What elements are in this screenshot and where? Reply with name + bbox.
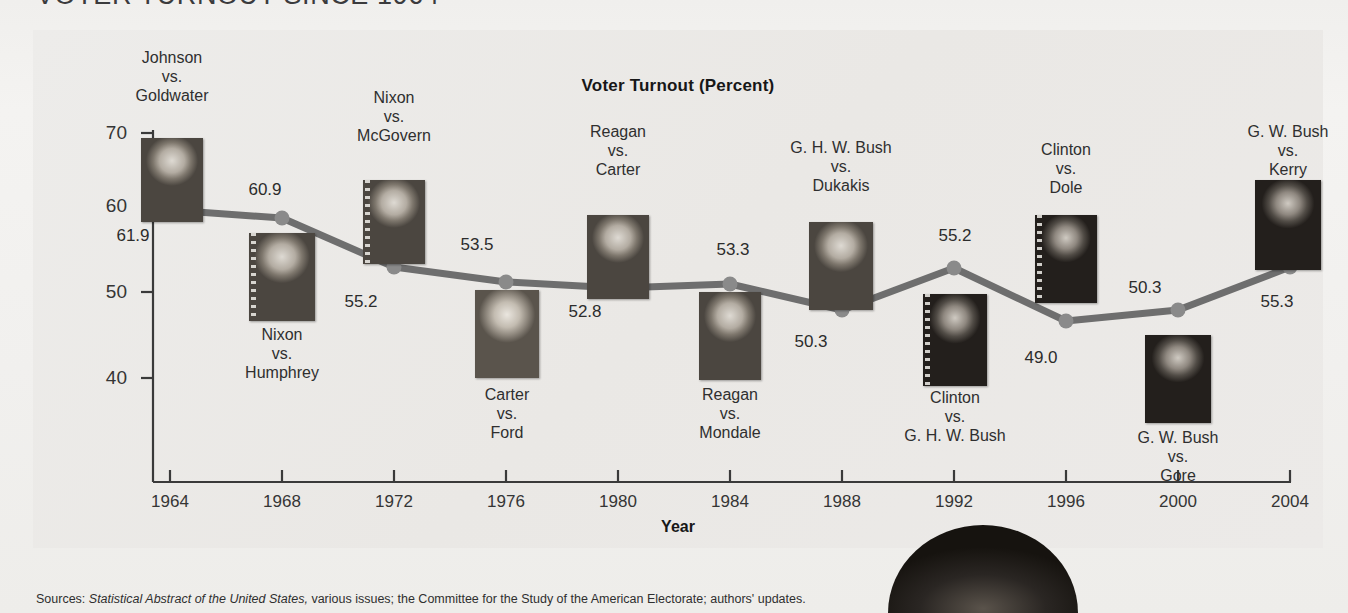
matchup-1984-line2: vs. xyxy=(645,404,815,423)
matchup-1976: Carter vs. Ford xyxy=(422,385,592,442)
x-tick-label-1984: 1984 xyxy=(685,492,775,512)
value-label-1980: 52.8 xyxy=(545,302,625,322)
matchup-2000-line1: G. W. Bush xyxy=(1093,428,1263,447)
matchup-1980-line2: vs. xyxy=(533,141,703,160)
reagan-1984-portrait xyxy=(699,292,761,380)
matchup-1988-line2: vs. xyxy=(756,157,926,176)
y-tick-label-70: 70 xyxy=(79,122,127,144)
page-root: VOTER TURNOUT SINCE 1964 Voter Turnout (… xyxy=(0,0,1348,613)
matchup-1972-line1: Nixon xyxy=(309,88,479,107)
matchup-1996: Clinton vs. Dole xyxy=(981,140,1151,197)
matchup-1972: Nixon vs. McGovern xyxy=(309,88,479,145)
matchup-1964-line2: vs. xyxy=(87,67,257,86)
matchup-1992: Clinton vs. G. H. W. Bush xyxy=(870,388,1040,445)
value-label-1996: 49.0 xyxy=(1001,348,1081,368)
matchup-1996-line1: Clinton xyxy=(981,140,1151,159)
matchup-1968-line1: Nixon xyxy=(197,325,367,344)
matchup-2000-line2: vs. xyxy=(1093,447,1263,466)
matchup-2004: G. W. Bush vs. Kerry xyxy=(1203,122,1348,179)
gw-bush-2000-portrait xyxy=(1145,335,1211,423)
value-label-1984: 53.3 xyxy=(693,240,773,260)
x-tick-label-1992: 1992 xyxy=(909,492,999,512)
x-tick-label-2000: 2000 xyxy=(1133,492,1223,512)
value-label-1968: 60.9 xyxy=(225,180,305,200)
matchup-2004-line2: vs. xyxy=(1203,141,1348,160)
matchup-1976-line2: vs. xyxy=(422,404,592,423)
matchup-1980-line1: Reagan xyxy=(533,122,703,141)
sources-note: Sources: Statistical Abstract of the Uni… xyxy=(36,592,806,606)
value-label-1992: 55.2 xyxy=(915,226,995,246)
x-tick-label-1988: 1988 xyxy=(797,492,887,512)
x-tick-label-2004: 2004 xyxy=(1245,492,1335,512)
matchup-1972-line2: vs. xyxy=(309,107,479,126)
value-label-1964: 61.9 xyxy=(93,226,173,246)
johnson-portrait xyxy=(141,138,203,222)
matchup-1968-line3: Humphrey xyxy=(197,363,367,382)
sources-prefix: Sources: xyxy=(36,592,89,606)
x-tick-label-1996: 1996 xyxy=(1021,492,1111,512)
chart-panel: Voter Turnout (Percent) Year xyxy=(33,30,1323,548)
matchup-1968: Nixon vs. Humphrey xyxy=(197,325,367,382)
matchup-1992-line3: G. H. W. Bush xyxy=(870,426,1040,445)
matchup-1976-line3: Ford xyxy=(422,423,592,442)
x-tick-label-1972: 1972 xyxy=(349,492,439,512)
matchup-1988-line1: G. H. W. Bush xyxy=(756,138,926,157)
y-tick-label-50: 50 xyxy=(79,281,127,303)
matchup-1988-line3: Dukakis xyxy=(756,176,926,195)
matchup-1964: Johnson vs. Goldwater xyxy=(87,48,257,105)
matchup-1980-line3: Carter xyxy=(533,160,703,179)
matchup-1964-line3: Goldwater xyxy=(87,86,257,105)
matchup-1992-line2: vs. xyxy=(870,407,1040,426)
x-tick-label-1976: 1976 xyxy=(461,492,551,512)
matchup-2000-line3: Gore xyxy=(1093,466,1263,485)
matchup-2004-line3: Kerry xyxy=(1203,160,1348,179)
gw-bush-2004-portrait xyxy=(1255,180,1321,270)
y-tick-label-40: 40 xyxy=(79,367,127,389)
nixon-1968-portrait xyxy=(249,233,315,321)
matchup-2004-line1: G. W. Bush xyxy=(1203,122,1348,141)
matchup-1996-line2: vs. xyxy=(981,159,1151,178)
matchup-1996-line3: Dole xyxy=(981,178,1151,197)
nixon-1972-portrait xyxy=(363,180,425,264)
matchup-1968-line2: vs. xyxy=(197,344,367,363)
carter-portrait xyxy=(475,290,539,378)
reagan-1980-portrait xyxy=(587,215,649,299)
x-tick-label-1980: 1980 xyxy=(573,492,663,512)
sources-rest: various issues; the Committee for the St… xyxy=(308,592,806,606)
value-label-1972: 55.2 xyxy=(321,292,401,312)
value-label-2000: 50.3 xyxy=(1105,278,1185,298)
matchup-2000: G. W. Bush vs. Gore xyxy=(1093,428,1263,485)
matchup-1988: G. H. W. Bush vs. Dukakis xyxy=(756,138,926,195)
page-headline: VOTER TURNOUT SINCE 1964 xyxy=(36,0,440,11)
matchup-1992-line1: Clinton xyxy=(870,388,1040,407)
x-tick-label-1964: 1964 xyxy=(125,492,215,512)
ghw-bush-portrait xyxy=(809,222,873,310)
y-tick-label-60: 60 xyxy=(79,195,127,217)
matchup-1984-line1: Reagan xyxy=(645,385,815,404)
value-label-1988: 50.3 xyxy=(771,332,851,352)
matchup-1980: Reagan vs. Carter xyxy=(533,122,703,179)
value-label-2004: 55.3 xyxy=(1237,292,1317,312)
matchup-1964-line1: Johnson xyxy=(87,48,257,67)
x-tick-label-1968: 1968 xyxy=(237,492,327,512)
matchup-1976-line1: Carter xyxy=(422,385,592,404)
matchup-1972-line3: McGovern xyxy=(309,126,479,145)
matchup-1984-line3: Mondale xyxy=(645,423,815,442)
sources-italic-title: Statistical Abstract of the United State… xyxy=(89,592,308,606)
clinton-1996-portrait xyxy=(1035,215,1097,303)
matchup-1984: Reagan vs. Mondale xyxy=(645,385,815,442)
clinton-1992-portrait xyxy=(923,294,987,386)
value-label-1976: 53.5 xyxy=(437,235,517,255)
